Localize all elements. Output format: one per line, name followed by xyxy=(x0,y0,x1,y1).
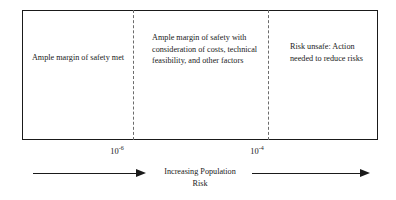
risk-band-box xyxy=(22,10,378,140)
threshold-exponent-1e-4: -4 xyxy=(259,145,264,151)
arrow-head-right-icon xyxy=(360,169,370,177)
threshold-label-1e-6: 10-6 xyxy=(101,147,133,156)
increasing-risk-arrow-right xyxy=(252,169,370,178)
arrow-shaft-left xyxy=(33,173,137,175)
band-divider-1e-6 xyxy=(133,10,134,140)
threshold-exponent-1e-6: -6 xyxy=(119,145,124,151)
increasing-risk-arrow-left xyxy=(33,169,146,178)
band-label-ample-margin-with-consideration: Ample margin of safety with consideratio… xyxy=(152,32,264,67)
axis-caption: Increasing Population Risk xyxy=(148,166,252,189)
arrow-shaft-right xyxy=(252,173,361,175)
threshold-base-1e-4: 10 xyxy=(250,147,258,156)
risk-tier-figure: Ample margin of safety met Ample margin … xyxy=(0,0,396,200)
threshold-base-1e-6: 10 xyxy=(110,147,118,156)
arrow-head-left-icon xyxy=(136,169,146,177)
threshold-label-1e-4: 10-4 xyxy=(241,147,273,156)
axis-caption-line-1: Increasing Population xyxy=(148,166,252,178)
band-label-ample-margin-met: Ample margin of safety met xyxy=(26,52,130,64)
band-label-risk-unsafe: Risk unsafe: Action needed to reduce ris… xyxy=(290,41,372,64)
band-divider-1e-4 xyxy=(268,10,269,140)
axis-caption-line-2: Risk xyxy=(148,178,252,190)
